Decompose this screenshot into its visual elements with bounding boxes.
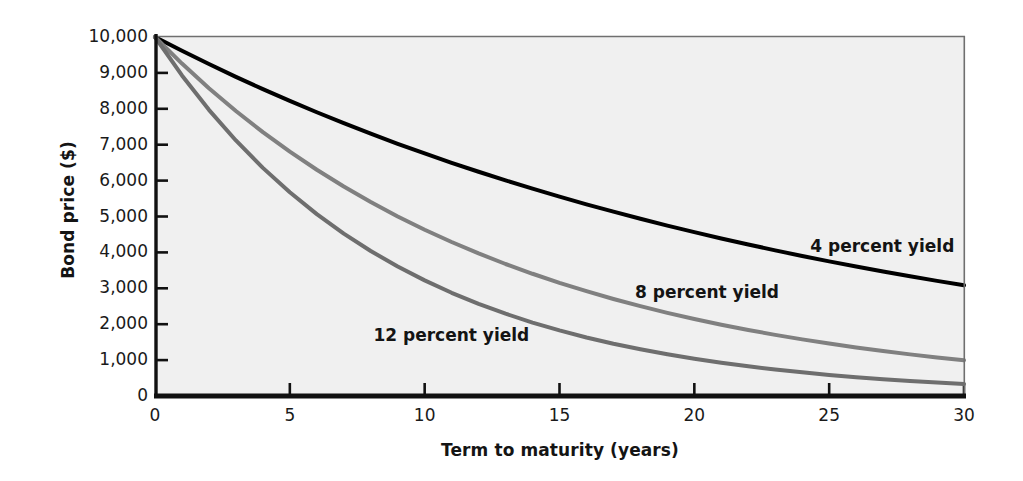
plot-background-group (155, 36, 965, 397)
curve-label: 8 percent yield (635, 282, 779, 302)
curve-label: 4 percent yield (810, 236, 954, 256)
chart-figure: Bond price ($) Term to maturity (years) … (0, 0, 1023, 481)
plot-background (155, 36, 965, 397)
curve-label: 12 percent yield (373, 325, 529, 345)
